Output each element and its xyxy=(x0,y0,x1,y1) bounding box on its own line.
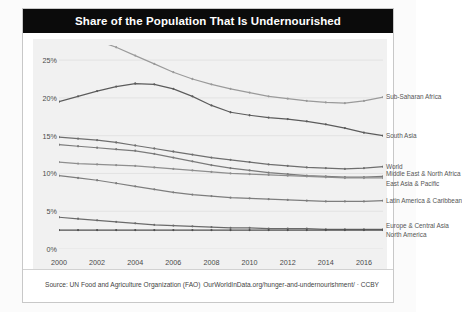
x-axis-tick-label: 2014 xyxy=(318,258,334,267)
series-label-east-asia-pacific: East Asia & Pacific xyxy=(386,180,439,187)
chart-footer: Source: UN Food and Agriculture Organiza… xyxy=(23,269,393,302)
y-axis-tick-label: 25% xyxy=(33,56,57,65)
chart-body: 0%5%10%15%20%25% 20002002200420062008201… xyxy=(23,33,393,271)
x-axis-tick-label: 2008 xyxy=(203,258,219,267)
y-axis-tick-label: 5% xyxy=(33,207,57,216)
series-label-europe-central-asia: Europe & Central Asia xyxy=(386,222,449,229)
y-axis-tick-label: 20% xyxy=(33,93,57,102)
line-chart-svg xyxy=(59,45,383,249)
plot-area: 0%5%10%15%20%25% 20002002200420062008201… xyxy=(33,39,387,271)
series-label-world: World xyxy=(386,163,403,170)
chart-canvas xyxy=(59,45,383,249)
x-axis-tick-label: 2002 xyxy=(89,258,105,267)
x-axis-tick-label: 2016 xyxy=(356,258,372,267)
y-axis-tick-label: 0% xyxy=(33,245,57,254)
source-note: Source: UN Food and Agriculture Organiza… xyxy=(45,281,200,288)
attribution-note[interactable]: OurWorldInData.org/hunger-and-undernouri… xyxy=(203,281,379,288)
y-axis-tick-label: 10% xyxy=(33,169,57,178)
x-axis-tick-label: 2000 xyxy=(51,258,67,267)
series-label-south-asia: South Asia xyxy=(386,132,417,139)
chart-title-bar: Share of the Population That Is Undernou… xyxy=(23,9,393,33)
x-axis-tick-label: 2004 xyxy=(127,258,143,267)
series-label-sub-saharan-africa: Sub-Saharan Africa xyxy=(386,93,441,100)
x-axis-tick-label: 2012 xyxy=(280,258,296,267)
series-label-middle-east-north-africa: Middle East & North Africa xyxy=(386,171,461,178)
y-axis-tick-label: 15% xyxy=(33,131,57,140)
page-title: Share of the Population That Is Undernou… xyxy=(75,15,341,27)
series-label-latin-america-caribbean: Latin America & Caribbean xyxy=(386,197,462,204)
x-axis-tick-label: 2010 xyxy=(242,258,258,267)
chart-card: Share of the Population That Is Undernou… xyxy=(22,8,394,303)
x-axis-tick-label: 2006 xyxy=(165,258,181,267)
plot-inner xyxy=(59,45,383,249)
series-label-north-america: North America xyxy=(386,232,427,239)
